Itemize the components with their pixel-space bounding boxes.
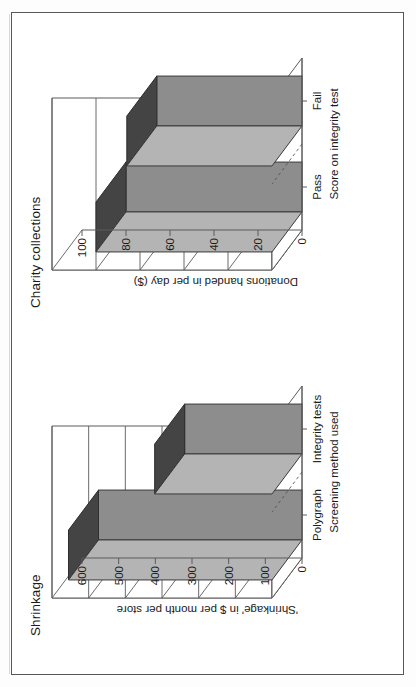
rotated-figure-stage: Shrinkage 0100200300400500600PolygraphIn… (22, 24, 394, 664)
chart-panel-shrinkage: Shrinkage 0100200300400500600PolygraphIn… (22, 352, 394, 664)
x-axis-title: Score on integrity test (328, 88, 340, 199)
y-tick-label: 400 (149, 566, 161, 604)
bar-front-face (126, 162, 302, 212)
y-axis-title: Donations handed in per day ($) (133, 276, 297, 288)
chart-panel-charity: Charity collections 020406080100PassFail… (22, 24, 394, 336)
bar-shrinkage-1 (154, 404, 301, 494)
plot-area-shrinkage: 0100200300400500600PolygraphIntegrity te… (52, 386, 302, 598)
chart-svg-shrinkage (52, 380, 308, 598)
y-tick-label: 100 (259, 566, 271, 604)
bar-front-face (156, 76, 301, 126)
bar-front-face (184, 404, 301, 454)
y-tick-label: 300 (186, 566, 198, 604)
chart-title-charity: Charity collections (28, 196, 43, 307)
y-tick-label: 100 (76, 238, 88, 276)
chart-svg-charity (52, 52, 308, 270)
y-tick-label: 60 (164, 238, 176, 276)
y-tick-label: 20 (252, 238, 264, 276)
bar-front-face (98, 490, 302, 540)
y-tick-label: 500 (112, 566, 124, 604)
plot-area-charity: 020406080100PassFailScore on integrity t… (52, 58, 302, 270)
x-tick-label: Polygraph (311, 489, 323, 541)
y-axis-title: 'Shrinkage' in $ per month per store (116, 604, 297, 616)
bar-side-face (126, 125, 301, 165)
scanned-page: Shrinkage 0100200300400500600PolygraphIn… (0, 0, 416, 687)
x-tick-label: Integrity tests (311, 394, 323, 462)
page-frame-border: Shrinkage 0100200300400500600PolygraphIn… (11, 12, 404, 675)
y-tick-label: 0 (296, 566, 308, 604)
y-tick-label: 40 (208, 238, 220, 276)
chart-title-shrinkage: Shrinkage (28, 574, 43, 636)
y-tick-label: 80 (120, 238, 132, 276)
y-tick-label: 0 (296, 238, 308, 276)
y-tick-label: 600 (76, 566, 88, 604)
y-tick-label: 200 (222, 566, 234, 604)
x-axis-title: Screening method used (328, 411, 340, 532)
x-tick-label: Fail (311, 91, 323, 110)
bar-charity-1 (126, 76, 301, 166)
x-tick-label: Pass (311, 174, 323, 200)
